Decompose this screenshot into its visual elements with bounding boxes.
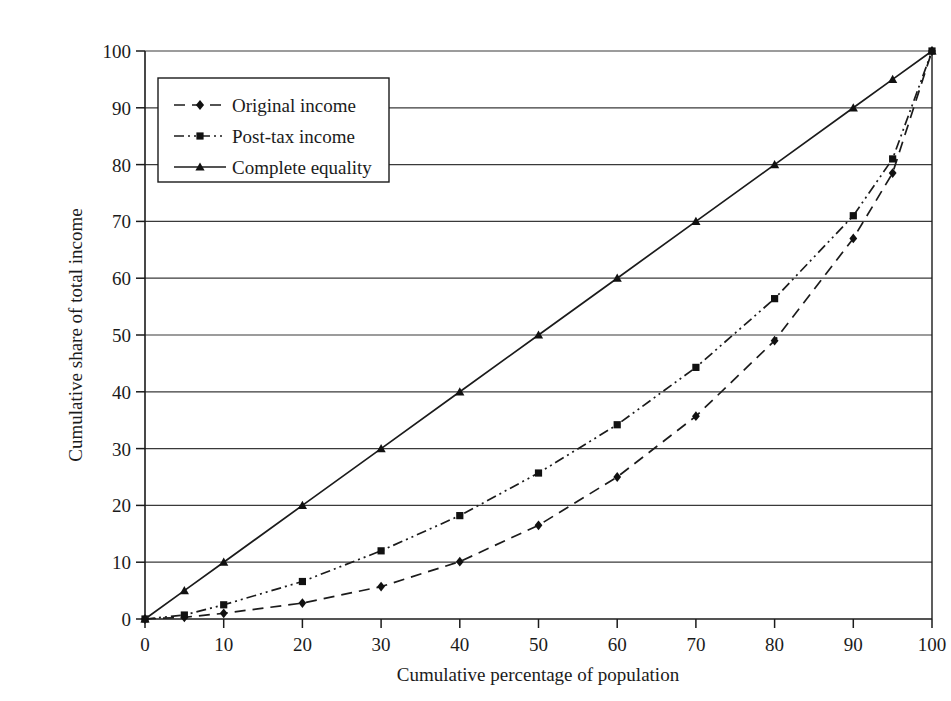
x-tick-label-40: 40 [450,634,469,655]
y-tick-label-10: 10 [112,552,131,573]
y-tick-label-30: 30 [112,439,131,460]
x-tick-label-90: 90 [844,634,863,655]
chart-legend: Original incomePost-tax incomeComplete e… [158,78,389,182]
data-point-20 [299,578,306,585]
y-tick-label-20: 20 [112,495,131,516]
y-tick-label-60: 60 [112,268,131,289]
x-tick-label-100: 100 [918,634,947,655]
legend-label: Original income [232,95,356,116]
y-tick-label-70: 70 [112,211,131,232]
y-axis-title: Cumulative share of total income [65,208,86,461]
data-point-10 [220,601,227,608]
x-tick-label-30: 30 [372,634,391,655]
x-tick-label-50: 50 [529,634,548,655]
data-point-60 [614,421,621,428]
x-tick-label-70: 70 [686,634,705,655]
x-tick-label-20: 20 [293,634,312,655]
data-point-90 [850,212,857,219]
data-point-40 [456,512,463,519]
x-tick-label-60: 60 [608,634,627,655]
y-tick-label-100: 100 [103,41,132,62]
legend-label: Complete equality [232,157,372,178]
data-point-30 [378,547,385,554]
y-tick-label-80: 80 [112,155,131,176]
data-point-95 [889,155,896,162]
y-tick-label-90: 90 [112,98,131,119]
data-point-50 [535,469,542,476]
lorenz-curve-chart: 0102030405060708090100 01020304050607080… [40,16,951,701]
x-tick-label-80: 80 [765,634,784,655]
data-point-70 [692,364,699,371]
legend-marker-square [196,132,203,139]
y-tick-label-0: 0 [122,609,132,630]
data-point-80 [771,295,778,302]
x-tick-label-10: 10 [214,634,233,655]
legend-label: Post-tax income [232,126,355,147]
chart-canvas: 0102030405060708090100 01020304050607080… [40,16,951,701]
y-tick-label-50: 50 [112,325,131,346]
y-tick-label-40: 40 [112,382,131,403]
data-point-5 [181,611,188,618]
x-axis-title: Cumulative percentage of population [397,664,680,685]
x-tick-label-0: 0 [140,634,150,655]
